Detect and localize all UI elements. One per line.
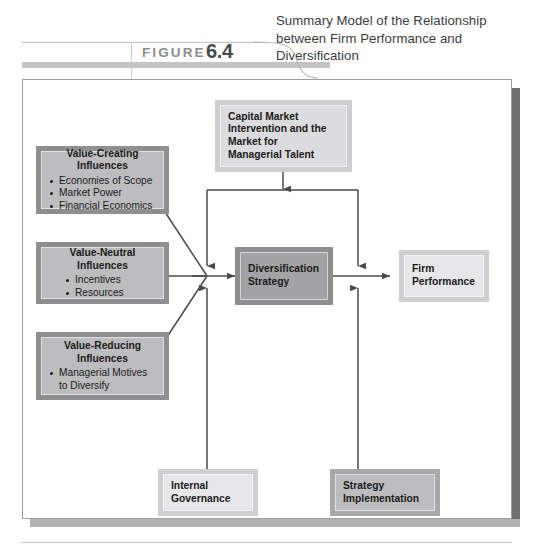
node-label-internal-governance: Internal Governance [164, 480, 252, 505]
node-line: Strategy [248, 276, 320, 289]
page-bottom-rule [22, 542, 512, 543]
node-line: Internal [171, 480, 245, 493]
bullet-item: Managerial Motives to Diversify [49, 367, 156, 392]
figure-label: FIGURE [142, 45, 206, 60]
bullet-item: Resources [65, 287, 156, 299]
node-inner: Strategy Implementation [335, 474, 435, 511]
node-inner: Capital Market Intervention and the Mark… [220, 105, 347, 167]
node-label-value-creating: Value-Creating Influences Economies of S… [42, 148, 163, 212]
node-value-neutral-influences[interactable]: Value-Neutral Influences Incentives Reso… [36, 242, 169, 304]
node-line: Implementation [343, 493, 427, 506]
node-inner: Value-Reducing Influences Managerial Mot… [41, 337, 164, 395]
node-bullet-list: Incentives Resources [65, 274, 156, 299]
frame-shadow-bottom [30, 519, 520, 527]
node-label-capital-market: Capital Market Intervention and the Mark… [221, 111, 346, 161]
figure-tab-divider [131, 42, 132, 80]
bullet-item: Financial Economics [49, 200, 156, 212]
node-strategy-implementation[interactable]: Strategy Implementation [330, 469, 440, 516]
node-title-line: Value-Reducing [49, 340, 156, 353]
node-inner: Diversification Strategy [240, 252, 328, 300]
node-title-line: Value-Creating [49, 148, 156, 161]
node-title-line: Value-Neutral [49, 247, 156, 260]
node-line: Diversification [248, 263, 320, 276]
node-inner: Firm Performance [404, 255, 484, 297]
node-bullet-list: Economies of Scope Market Power Financia… [49, 175, 156, 212]
node-label-strategy-implementation: Strategy Implementation [336, 480, 434, 505]
bullet-item: Market Power [49, 187, 156, 199]
figure-tab-curve-decoration [252, 28, 320, 82]
node-title-line: Influences [49, 353, 156, 366]
node-diversification-strategy[interactable]: Diversification Strategy [235, 247, 333, 305]
node-label-firm-performance: Firm Performance [405, 263, 483, 288]
node-label-value-reducing: Value-Reducing Influences Managerial Mot… [42, 340, 163, 392]
node-line: Firm [412, 263, 476, 276]
node-inner: Internal Governance [163, 474, 253, 511]
figure-number: 6.4 [206, 40, 233, 63]
node-label-diversification-strategy: Diversification Strategy [241, 263, 327, 288]
node-value-reducing-influences[interactable]: Value-Reducing Influences Managerial Mot… [36, 332, 169, 400]
frame-shadow-right [512, 88, 520, 527]
node-internal-governance[interactable]: Internal Governance [158, 469, 258, 516]
node-line: Capital Market [228, 111, 339, 124]
bullet-item: Incentives [65, 274, 156, 286]
node-inner: Value-Creating Influences Economies of S… [41, 151, 164, 209]
node-line: Performance [412, 276, 476, 289]
node-line: Governance [171, 493, 245, 506]
node-label-value-neutral: Value-Neutral Influences Incentives Reso… [42, 247, 163, 299]
node-title-line: Influences [49, 160, 156, 173]
node-bullet-list: Managerial Motives to Diversify [49, 367, 156, 392]
figure-canvas: Summary Model of the Relationship betwee… [0, 0, 547, 548]
node-value-creating-influences[interactable]: Value-Creating Influences Economies of S… [36, 146, 169, 214]
bullet-item: Economies of Scope [49, 175, 156, 187]
node-capital-market-intervention[interactable]: Capital Market Intervention and the Mark… [215, 100, 352, 172]
node-line: Market for [228, 136, 339, 149]
node-title-line: Influences [49, 260, 156, 273]
node-line: Intervention and the [228, 123, 339, 136]
node-firm-performance[interactable]: Firm Performance [399, 250, 489, 302]
node-line: Managerial Talent [228, 149, 339, 162]
node-inner: Value-Neutral Influences Incentives Reso… [41, 247, 164, 299]
node-line: Strategy [343, 480, 427, 493]
